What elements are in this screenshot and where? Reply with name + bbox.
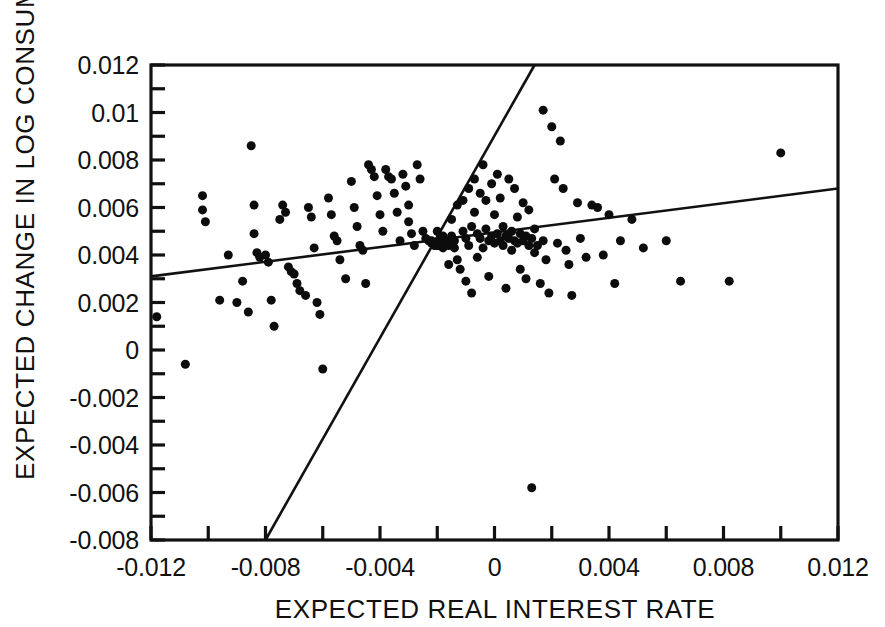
data-point xyxy=(559,184,568,193)
data-point xyxy=(487,179,496,188)
data-point xyxy=(181,360,190,369)
data-point xyxy=(335,255,344,264)
data-point xyxy=(313,298,322,307)
data-point xyxy=(390,189,399,198)
data-point xyxy=(676,277,685,286)
data-point xyxy=(501,284,510,293)
x-tick-label: -0.012 xyxy=(116,553,186,581)
data-point xyxy=(544,289,553,298)
data-point xyxy=(573,198,582,207)
figure-root: EXPECTED CHANGE IN LOG CONSUMPTION EXPEC… xyxy=(0,0,885,627)
data-point xyxy=(341,274,350,283)
data-point xyxy=(576,234,585,243)
data-point xyxy=(281,208,290,217)
data-point xyxy=(307,213,316,222)
data-point xyxy=(464,184,473,193)
data-point xyxy=(527,483,536,492)
data-point xyxy=(450,243,459,252)
data-point-group xyxy=(152,106,785,493)
data-point xyxy=(444,260,453,269)
data-point xyxy=(398,170,407,179)
data-point xyxy=(610,279,619,288)
x-tick-label: 0.008 xyxy=(693,553,755,581)
y-tick-label: 0 xyxy=(125,336,139,364)
y-tick-label: -0.004 xyxy=(69,431,139,459)
data-point xyxy=(264,258,273,267)
data-point xyxy=(456,265,465,274)
data-point xyxy=(370,172,379,181)
y-tick-label: -0.008 xyxy=(69,526,139,554)
y-tick-label: 0.002 xyxy=(77,289,139,317)
data-point xyxy=(493,170,502,179)
data-point xyxy=(479,160,488,169)
data-point xyxy=(198,191,207,200)
data-point xyxy=(476,234,485,243)
data-point xyxy=(725,277,734,286)
data-point xyxy=(461,277,470,286)
data-point xyxy=(473,253,482,262)
data-point xyxy=(401,182,410,191)
data-point xyxy=(378,227,387,236)
data-point xyxy=(519,198,528,207)
scatter-plot: EXPECTED CHANGE IN LOG CONSUMPTION EXPEC… xyxy=(0,0,885,627)
data-point xyxy=(504,175,513,184)
data-point xyxy=(470,208,479,217)
data-point xyxy=(582,253,591,262)
data-point xyxy=(564,260,573,269)
data-point xyxy=(201,217,210,226)
data-point xyxy=(524,205,533,214)
data-point xyxy=(507,227,516,236)
data-point xyxy=(562,246,571,255)
data-point xyxy=(536,279,545,288)
data-point xyxy=(470,175,479,184)
data-point xyxy=(358,246,367,255)
data-point xyxy=(484,272,493,281)
data-point xyxy=(327,210,336,219)
y-tick-label: -0.002 xyxy=(69,384,139,412)
data-point xyxy=(616,236,625,245)
data-point xyxy=(347,177,356,186)
y-tick-label: 0.008 xyxy=(77,146,139,174)
data-point xyxy=(627,215,636,224)
y-tick-label: 0.01 xyxy=(91,99,139,127)
data-point xyxy=(481,224,490,233)
data-point xyxy=(516,265,525,274)
x-tick-label-group: -0.012-0.008-0.00400.0040.0080.012 xyxy=(116,553,869,581)
data-point xyxy=(464,241,473,250)
data-point xyxy=(507,246,516,255)
data-point xyxy=(413,160,422,169)
data-point xyxy=(247,141,256,150)
data-point xyxy=(315,310,324,319)
data-point xyxy=(416,175,425,184)
x-tick-label: -0.008 xyxy=(231,553,301,581)
y-tick-label-group: 0.0120.010.0080.0060.0040.0020-0.002-0.0… xyxy=(69,51,139,554)
data-point xyxy=(476,189,485,198)
data-point xyxy=(539,236,548,245)
data-point xyxy=(244,308,253,317)
data-point xyxy=(393,208,402,217)
data-point xyxy=(250,229,259,238)
data-point xyxy=(593,203,602,212)
data-point xyxy=(459,196,468,205)
regression-line-group xyxy=(151,65,838,540)
y-axis-title: EXPECTED CHANGE IN LOG CONSUMPTION xyxy=(10,0,40,480)
data-point xyxy=(275,215,284,224)
data-point xyxy=(410,241,419,250)
x-axis-title: EXPECTED REAL INTEREST RATE xyxy=(275,594,715,624)
data-point xyxy=(333,236,342,245)
data-point xyxy=(530,224,539,233)
data-point xyxy=(198,205,207,214)
data-point xyxy=(513,213,522,222)
data-point xyxy=(481,196,490,205)
data-point xyxy=(453,255,462,264)
y-tick-label: 0.006 xyxy=(77,194,139,222)
data-point xyxy=(152,312,161,321)
data-point xyxy=(662,236,671,245)
data-point xyxy=(547,122,556,131)
x-tick-label: -0.004 xyxy=(345,553,415,581)
data-point xyxy=(373,191,382,200)
data-point xyxy=(267,296,276,305)
data-point xyxy=(215,296,224,305)
data-point xyxy=(290,270,299,279)
data-point xyxy=(270,322,279,331)
